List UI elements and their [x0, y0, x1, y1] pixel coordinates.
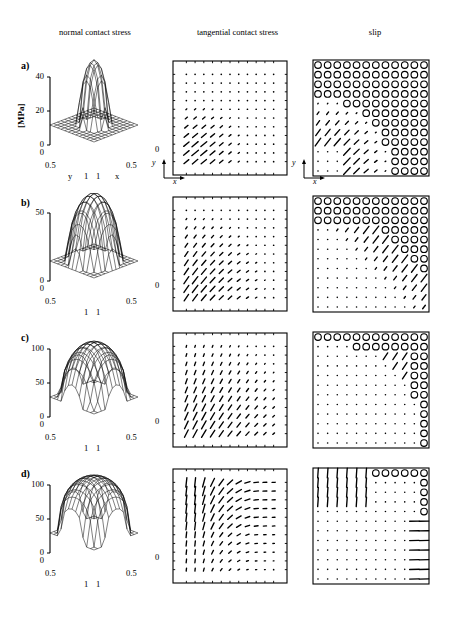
- xtick-b-right-0: 0: [155, 280, 159, 290]
- unit-label-a: [MPa]: [16, 104, 26, 129]
- figure-contact-mechanics: normal contact stress tangential contact…: [0, 0, 449, 633]
- origin-b: 0: [22, 283, 44, 293]
- slip-plot-b: [308, 191, 434, 317]
- xtick-c-right-1: 1: [96, 443, 100, 453]
- ztick-d-50: 50: [16, 513, 44, 523]
- ztick-a-40: 40: [22, 71, 44, 81]
- axis-name-a-y: y: [68, 171, 72, 181]
- xtick-b-right-1: 1: [96, 307, 100, 317]
- xtick-a-left-1: 1: [84, 171, 88, 181]
- xtick-b-right-05: 0.5: [126, 296, 137, 306]
- column-header-slip: slip: [320, 27, 430, 37]
- panel-d-tangential: [170, 466, 290, 586]
- column-header-tangential: tangential contact stress: [155, 27, 320, 37]
- ztick-c-50: 50: [16, 377, 44, 387]
- inset-y-a-slip: y: [292, 158, 296, 167]
- xtick-c-left-05: 0.5: [45, 432, 56, 442]
- xtick-d-left-1: 1: [84, 579, 88, 589]
- panel-b-tangential: [170, 194, 290, 314]
- panel-d-slip: [308, 463, 434, 589]
- xtick-d-right-0: 0: [155, 552, 159, 562]
- ztick-c-100: 100: [16, 343, 44, 353]
- xtick-d-left-05: 0.5: [45, 568, 56, 578]
- xtick-c-right-0: 0: [155, 416, 159, 426]
- ztick-d-100: 100: [16, 479, 44, 489]
- quiver-plot-d: [170, 466, 290, 586]
- xtick-b-left-1: 1: [84, 307, 88, 317]
- quiver-plot-c: [170, 330, 290, 450]
- xtick-a-right-05: 0.5: [126, 160, 137, 170]
- inset-x-a-tangential: x: [173, 177, 177, 186]
- panel-b-slip: [308, 191, 434, 317]
- xtick-d-right-05: 0.5: [126, 568, 137, 578]
- origin-a: 0: [22, 147, 44, 157]
- xtick-d-right-1: 1: [96, 579, 100, 589]
- inset-x-a-slip: x: [313, 177, 317, 186]
- slip-plot-c: [308, 327, 434, 453]
- xtick-c-right-05: 0.5: [126, 432, 137, 442]
- origin-d: 0: [16, 555, 44, 565]
- slip-plot-d: [308, 463, 434, 589]
- column-header-normal: normal contact stress: [20, 27, 170, 37]
- axis-name-a-x: x: [115, 171, 119, 181]
- xtick-c-left-1: 1: [84, 443, 88, 453]
- ztick-b-50: 50: [22, 207, 44, 217]
- xtick-b-left-05: 0.5: [45, 296, 56, 306]
- xtick-a-right-1: 1: [96, 171, 100, 181]
- xtick-a-right-0: 0: [155, 144, 159, 154]
- inset-y-a-tangential: y: [152, 158, 156, 167]
- panel-c-slip: [308, 327, 434, 453]
- xtick-a-left-05: 0.5: [45, 160, 56, 170]
- quiver-plot-b: [170, 194, 290, 314]
- panel-c-tangential: [170, 330, 290, 450]
- origin-c: 0: [16, 419, 44, 429]
